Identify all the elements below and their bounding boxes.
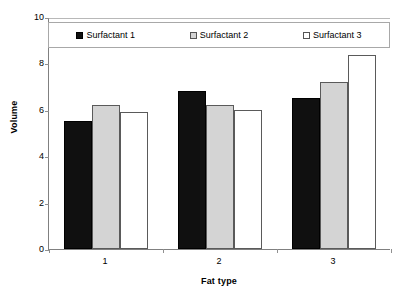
y-axis-tick-mark <box>45 18 49 19</box>
x-axis-tick-label: 3 <box>313 256 353 266</box>
x-axis-title: Fat type <box>48 276 390 286</box>
bar-2-group-1[interactable] <box>92 105 120 249</box>
plot-area <box>48 18 390 250</box>
bar-1-group-3[interactable] <box>292 98 320 249</box>
chart-legend: Surfactant 1 Surfactant 2 Surfactant 3 <box>48 22 390 48</box>
x-axis-tick-label: 2 <box>199 256 239 266</box>
x-axis-tick-label: 1 <box>85 256 125 266</box>
y-axis-tick-mark <box>45 204 49 205</box>
y-axis-tick-mark <box>45 111 49 112</box>
gray-square-icon <box>190 32 197 39</box>
y-axis-tick-label: 2 <box>22 199 44 208</box>
legend-item-label: Surfactant 1 <box>86 31 135 40</box>
legend-item-label: Surfactant 2 <box>200 31 249 40</box>
legend-item[interactable]: Surfactant 1 <box>49 31 162 40</box>
x-axis-tick-mark <box>391 249 392 253</box>
y-axis-tick-mark <box>45 64 49 65</box>
legend-item[interactable]: Surfactant 3 <box>276 31 389 40</box>
x-axis-tick-mark <box>277 249 278 253</box>
legend-item-label: Surfactant 3 <box>313 31 362 40</box>
y-axis-tick-labels: 0246810 <box>20 0 44 301</box>
y-axis-tick-label: 8 <box>22 59 44 68</box>
bar-2-group-2[interactable] <box>206 105 234 249</box>
legend-item[interactable]: Surfactant 2 <box>162 31 275 40</box>
bar-3-group-3[interactable] <box>348 55 376 249</box>
bar-1-group-1[interactable] <box>64 121 92 249</box>
x-axis-tick-mark <box>163 249 164 253</box>
y-axis-tick-label: 10 <box>22 13 44 22</box>
y-axis-tick-mark <box>45 157 49 158</box>
y-axis-tick-label: 0 <box>22 245 44 254</box>
y-axis-tick-label: 4 <box>22 152 44 161</box>
bar-3-group-1[interactable] <box>120 112 148 249</box>
grouped-bar-chart: Volume 0246810 Surfactant 1 Surfactant 2… <box>0 0 402 301</box>
y-axis-title: Volume <box>9 77 19 157</box>
bar-2-group-3[interactable] <box>320 82 348 249</box>
bar-3-group-2[interactable] <box>234 110 262 249</box>
x-axis-tick-mark <box>49 249 50 253</box>
black-square-icon <box>76 32 83 39</box>
bar-1-group-2[interactable] <box>178 91 206 249</box>
y-axis-tick-label: 6 <box>22 106 44 115</box>
white-square-icon <box>303 32 310 39</box>
